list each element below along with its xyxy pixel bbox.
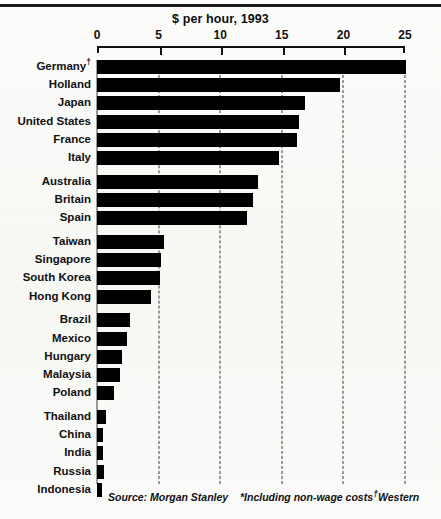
bar-row: Poland	[97, 386, 405, 400]
category-label: Hong Kong	[29, 291, 91, 303]
bar-rows: Germany†HollandJapanUnited StatesFranceI…	[97, 60, 405, 484]
bar	[97, 193, 253, 207]
category-label: Russia	[53, 466, 91, 478]
bar-row: Thailand	[97, 410, 405, 424]
footnote-dagger-text: Western	[378, 491, 419, 503]
bar	[97, 253, 161, 267]
x-tick-label-15: 15	[275, 28, 288, 42]
category-label: Taiwan	[53, 236, 91, 248]
category-label: Malaysia	[43, 369, 91, 381]
bar-row: Mexico	[97, 332, 405, 346]
bar	[97, 175, 258, 189]
category-label: Thailand	[44, 411, 91, 423]
category-label: Germany†	[36, 61, 91, 73]
x-tick-mark-20	[344, 48, 346, 55]
bar	[97, 465, 104, 479]
bar	[97, 211, 247, 225]
category-label: Poland	[53, 387, 91, 399]
bar-row: France	[97, 133, 405, 147]
x-tick-mark-10	[221, 48, 223, 55]
bar-row: Brazil	[97, 313, 405, 327]
category-label: Spain	[60, 212, 91, 224]
category-label: Britain	[55, 194, 91, 206]
bar	[97, 115, 299, 129]
bar	[97, 386, 114, 400]
bar-row: Spain	[97, 211, 405, 225]
category-label: France	[53, 134, 91, 146]
bar-row: Taiwan	[97, 235, 405, 249]
footnote-star: *Including non-wage costs	[240, 491, 373, 503]
bar-row: Germany†	[97, 60, 405, 74]
category-label: India	[64, 448, 91, 460]
bar	[97, 60, 406, 74]
category-label: China	[59, 429, 91, 441]
x-axis-line	[97, 46, 405, 53]
bar	[97, 410, 106, 424]
category-label: Hungary	[44, 351, 91, 363]
bar	[97, 446, 103, 460]
category-label: South Korea	[23, 273, 91, 285]
bar-row: Russia	[97, 465, 405, 479]
footnote-dagger: †Western	[373, 491, 419, 503]
bar-row: Singapore	[97, 253, 405, 267]
x-tick-label-25: 25	[398, 28, 411, 42]
bar	[97, 78, 340, 92]
bar	[97, 235, 164, 249]
bar-row: China	[97, 428, 405, 442]
bar	[97, 151, 279, 165]
top-divider	[0, 4, 441, 7]
x-tick-label-20: 20	[337, 28, 350, 42]
bar-row: Hong Kong	[97, 290, 405, 304]
chart-page: $ per hour, 1993 0510152025 Germany†Holl…	[0, 0, 441, 519]
bar	[97, 96, 305, 110]
x-tick-label-10: 10	[214, 28, 227, 42]
bar-row: Malaysia	[97, 368, 405, 382]
category-label: Japan	[58, 98, 91, 110]
bar-row: Holland	[97, 78, 405, 92]
category-label: Australia	[42, 176, 91, 188]
x-tick-mark-15	[283, 48, 285, 55]
category-label: Mexico	[52, 333, 91, 345]
bar	[97, 133, 297, 147]
bar	[97, 368, 120, 382]
bar-row: Hungary	[97, 350, 405, 364]
plot-area: Germany†HollandJapanUnited StatesFranceI…	[97, 60, 405, 484]
footnotes: Source: Morgan Stanley *Including non-wa…	[0, 491, 441, 507]
bar-row: South Korea	[97, 271, 405, 285]
category-label: Holland	[49, 79, 91, 91]
bar	[97, 332, 127, 346]
bar	[97, 313, 130, 327]
bar	[97, 271, 160, 285]
category-label: Italy	[68, 152, 91, 164]
bar-row: Australia	[97, 175, 405, 189]
bar-row: Britain	[97, 193, 405, 207]
bar-row: India	[97, 446, 405, 460]
category-label: Singapore	[35, 254, 91, 266]
footnote-source: Source: Morgan Stanley	[108, 491, 228, 503]
chart-title: $ per hour, 1993	[0, 12, 441, 26]
bar-row: Japan	[97, 96, 405, 110]
x-tick-mark-5	[160, 48, 162, 55]
x-tick-label-0: 0	[94, 28, 101, 42]
bar-row: United States	[97, 115, 405, 129]
bar	[97, 428, 103, 442]
category-label: United States	[18, 116, 92, 128]
bar-row: Italy	[97, 151, 405, 165]
x-axis-tick-labels: 0510152025	[97, 28, 405, 44]
bar	[97, 290, 151, 304]
x-tick-label-5: 5	[155, 28, 162, 42]
bar	[97, 350, 122, 364]
dagger-marker-icon: †	[86, 57, 91, 67]
category-label: Brazil	[60, 315, 91, 327]
